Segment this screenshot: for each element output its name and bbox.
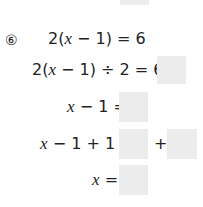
answer-box-left-term[interactable] — [119, 129, 148, 159]
answer-box-right-term[interactable] — [167, 129, 197, 159]
answer-box-previous[interactable] — [120, 0, 149, 5]
equation-line-3: x − 1 = — [67, 98, 127, 116]
plus-sign: + — [154, 135, 167, 153]
answer-box-x[interactable] — [119, 165, 148, 195]
problem-number: ⑥ — [5, 32, 18, 48]
equation-line-5: x = — [92, 171, 118, 189]
equation-line-1: 2(x − 1) = 6 — [48, 30, 146, 48]
answer-box-x-minus-1[interactable] — [119, 92, 148, 122]
answer-box-divisor[interactable] — [157, 56, 186, 84]
